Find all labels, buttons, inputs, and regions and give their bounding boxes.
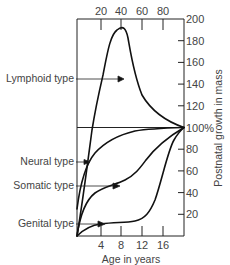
label-arrows [76,76,124,227]
top-tick-20: 20 [95,5,107,17]
x-axis-title: Age in years [102,253,160,265]
top-tick-60: 60 [136,5,148,17]
label-somatic: Somatic type [13,179,74,191]
right-tick-80: 80 [186,143,198,155]
genital-curve [77,128,184,237]
right-axis-labels: 200 180 160 140 120 100% 80 60 40 20 [186,13,214,220]
right-tick-60: 60 [186,165,198,177]
neural-curve [77,128,184,210]
right-tick-20: 20 [186,208,198,220]
top-axis-labels: 20 40 60 80 [95,5,169,17]
bottom-tick-12: 12 [136,239,148,251]
right-tick-140: 140 [186,78,204,90]
bottom-tick-8: 8 [118,239,124,251]
top-tick-40: 40 [115,5,127,17]
right-tick-40: 40 [186,187,198,199]
top-tick-80: 80 [157,5,169,17]
type-labels: Lymphoid type Neural type Somatic type G… [6,72,74,229]
label-lymphoid: Lymphoid type [6,72,74,84]
bottom-axis-labels: 4 8 12 16 [98,239,169,251]
top-axis-ticks [101,19,163,30]
somatic-curve [77,128,184,237]
label-neural: Neural type [20,155,74,167]
right-tick-180: 180 [186,35,204,47]
bottom-tick-16: 16 [157,239,169,251]
curves [77,28,184,236]
right-tick-160: 160 [186,56,204,68]
bottom-axis-ticks [101,226,163,236]
right-tick-200: 200 [186,13,204,25]
right-tick-120: 120 [186,100,204,112]
growth-chart: 20 40 60 80 4 8 12 16 Age in years 200 1… [0,0,230,265]
lymphoid-arrowhead [118,76,124,82]
y-axis-title: Postnatal growth in mass [212,69,224,186]
label-genital: Genital type [18,217,74,229]
bottom-tick-4: 4 [98,239,104,251]
right-tick-100: 100% [186,122,214,134]
